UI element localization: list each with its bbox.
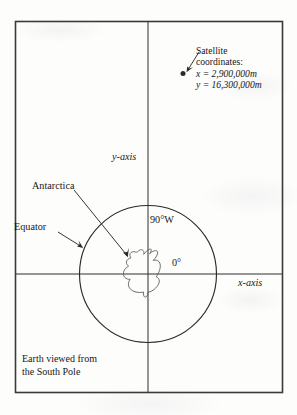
- antarctica-outline: [123, 249, 160, 297]
- satellite-x-coordinate: x = 2,900,000m: [196, 68, 262, 79]
- meridian-0-label: 0°: [172, 257, 181, 269]
- y-axis-label: y-axis: [112, 151, 136, 163]
- meridian-90w-label: 90°W: [150, 214, 174, 226]
- figure-earth-south-pole: Satellite coordinates: x = 2,900,000m y …: [0, 0, 297, 415]
- satellite-dot[interactable]: [181, 71, 186, 76]
- equator-label: Equator: [14, 221, 46, 233]
- satellite-y-coordinate: y = 16,300,000m: [196, 79, 262, 90]
- satellite-title-line-2: coordinates:: [196, 56, 262, 67]
- caption-line-2: the South Pole: [22, 365, 97, 378]
- equator-leader: [58, 232, 83, 248]
- antarctica-label: Antarctica: [32, 180, 74, 192]
- figure-caption: Earth viewed from the South Pole: [22, 352, 97, 378]
- satellite-title-line-1: Satellite: [196, 45, 262, 56]
- caption-line-1: Earth viewed from: [22, 352, 97, 365]
- x-axis-label: x-axis: [238, 277, 262, 289]
- satellite-coordinates-block: Satellite coordinates: x = 2,900,000m y …: [196, 45, 262, 90]
- antarctica-arrowhead: [123, 248, 129, 257]
